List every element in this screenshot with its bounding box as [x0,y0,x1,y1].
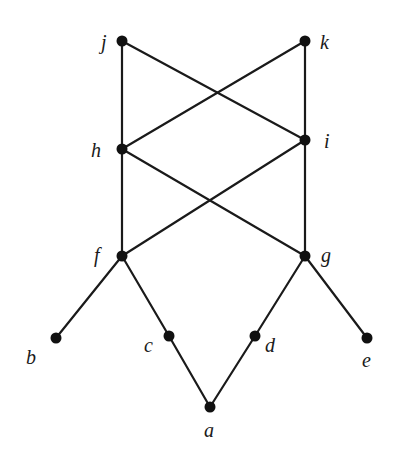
node-label-b: b [26,346,36,368]
edge-i-f [122,140,305,256]
node-label-g: g [321,244,331,267]
edge-f-c [122,256,169,336]
node-d [250,331,261,342]
node-label-k: k [320,31,330,53]
node-label-c: c [144,334,153,356]
node-g [300,251,311,262]
node-h [117,144,128,155]
hasse-diagram: jkhifgbcdea [0,0,396,456]
node-label-e: e [362,349,371,371]
edge-f-b [56,256,122,338]
node-label-h: h [91,139,101,161]
labels-group: jkhifgbcdea [26,31,371,441]
node-label-a: a [204,419,214,441]
node-k [300,36,311,47]
node-label-i: i [324,130,330,152]
node-a [205,402,216,413]
edge-k-h [122,41,305,149]
node-label-f: f [94,244,102,267]
node-label-d: d [265,334,276,356]
edge-g-e [305,256,367,338]
node-e [362,333,373,344]
node-j [117,36,128,47]
edge-c-a [169,336,210,407]
edge-d-a [210,336,255,407]
node-f [117,251,128,262]
edge-j-i [122,41,305,140]
edges-group [56,41,367,407]
edge-h-g [122,149,305,256]
nodes-group [51,36,373,413]
node-label-j: j [98,31,107,54]
node-b [51,333,62,344]
edge-g-d [255,256,305,336]
node-c [164,331,175,342]
node-i [300,135,311,146]
